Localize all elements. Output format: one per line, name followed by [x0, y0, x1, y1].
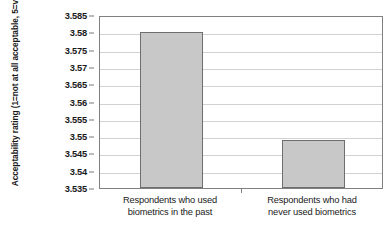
y-axis-tick-mark	[89, 137, 94, 138]
y-axis-tick-mark	[89, 67, 94, 68]
x-axis-category-label: Respondents who usedbiometrics in the pa…	[99, 194, 241, 219]
y-axis-tick-label: 3.57	[70, 63, 87, 73]
y-axis-tick-mark	[89, 50, 94, 51]
x-axis-tick-mark	[241, 189, 242, 193]
y-axis-tick-mark	[89, 154, 94, 155]
y-axis-tick-label: 3.55	[70, 132, 87, 142]
x-axis-category-labels: Respondents who usedbiometrics in the pa…	[99, 194, 383, 229]
x-axis-category-label-line: Respondents who used	[99, 194, 241, 206]
y-axis-title-text: Acceptability rating (1=not at all accep…	[10, 9, 21, 187]
y-axis-title: Acceptability rating (1=not at all accep…	[0, 0, 30, 195]
y-axis-tick-mark	[89, 85, 94, 86]
y-axis-tick-label: 3.56	[70, 98, 87, 108]
y-axis-tick-mark	[89, 16, 94, 17]
x-axis-category-label-line: biometrics in the past	[99, 206, 241, 218]
y-axis-tick-labels: 3.5853.583.5753.573.5653.563.5553.553.54…	[30, 16, 94, 189]
bar-chart: Acceptability rating (1=not at all accep…	[0, 0, 391, 229]
y-axis-tick-label: 3.555	[65, 115, 87, 125]
x-axis-category-label: Respondents who hadnever used biometrics	[241, 194, 383, 219]
y-axis-tick-mark	[89, 102, 94, 103]
plot-area	[99, 16, 383, 189]
x-axis-category-label-line: never used biometrics	[241, 206, 383, 218]
bar	[140, 32, 203, 188]
y-axis-tick-label: 3.545	[65, 149, 87, 159]
y-axis-tick-mark	[89, 171, 94, 172]
y-axis-tick-mark	[89, 33, 94, 34]
y-axis-tick-label: 3.575	[65, 46, 87, 56]
y-axis-tick-label: 3.54	[70, 167, 87, 177]
x-axis-category-label-line: Respondents who had	[241, 194, 383, 206]
y-axis-tick-label: 3.565	[65, 80, 87, 90]
y-axis-tick-label: 3.585	[65, 11, 87, 21]
y-axis-tick-label: 3.535	[65, 184, 87, 194]
y-axis-tick-mark	[89, 119, 94, 120]
y-axis-tick-mark	[89, 189, 94, 190]
y-axis-tick-label: 3.58	[70, 28, 87, 38]
bar	[282, 140, 345, 188]
